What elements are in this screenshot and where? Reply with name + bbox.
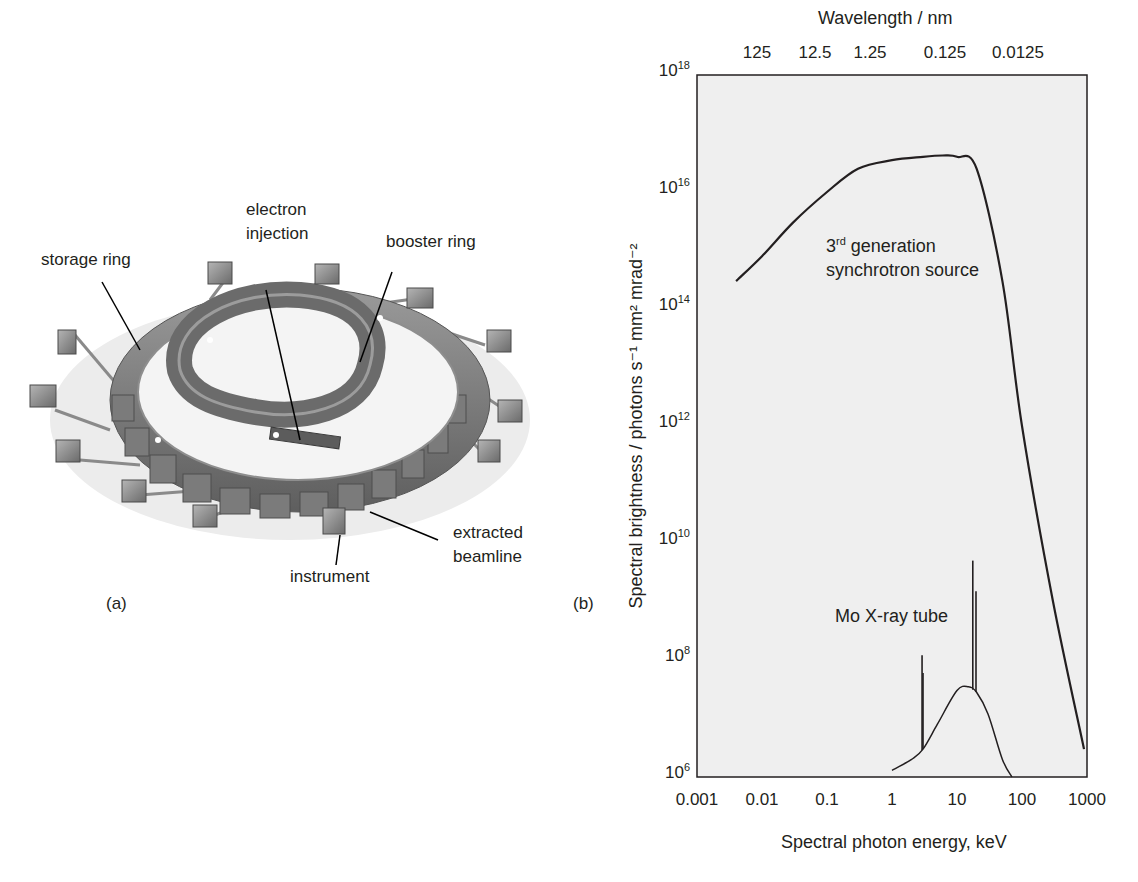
x-axis-label: Spectral photon energy, keV [781,832,1007,853]
y-tick-label: 108 [665,646,690,666]
label-storage-ring: storage ring [41,250,131,270]
label-extracted-beamline-line2: beamline [453,547,522,567]
x-tick-label: 0.001 [676,790,719,810]
mo-xray-tube-curve [892,686,1012,777]
top-axis-label: Wavelength / nm [818,8,952,29]
mo-xray-annotation: Mo X-ray tube [835,606,948,627]
label-extracted-beamline-line1: extracted [453,523,523,543]
label-instrument: instrument [290,567,369,587]
y-tick-label: 106 [665,763,690,783]
y-axis-label: Spectral brightness / photons s⁻¹ mm² mr… [625,243,647,608]
panel-b-label: (b) [573,594,594,614]
plot-area [697,75,1087,777]
label-electron-injection-line2: injection [246,224,308,244]
top-tick-label: 125 [743,43,771,63]
y-axis-label-text: Spectral brightness / photons s⁻¹ mm² mr… [626,243,646,608]
synchrotron-diagram [0,0,600,640]
label-booster-ring: booster ring [386,232,476,252]
y-tick-label: 1016 [659,178,690,198]
x-tick-label: 1 [887,790,896,810]
x-tick-label: 0.1 [815,790,839,810]
x-tick-label: 0.01 [745,790,778,810]
top-tick-label: 12.5 [798,43,831,63]
top-tick-label: 1.25 [853,43,886,63]
label-electron-injection-line1: electron [246,200,306,220]
synchrotron-annotation-line2: synchrotron source [826,260,979,281]
y-tick-label: 1018 [659,61,690,81]
x-tick-label: 10 [948,790,967,810]
top-tick-label: 0.0125 [992,43,1044,63]
top-tick-label: 0.125 [924,43,967,63]
x-tick-label: 1000 [1068,790,1106,810]
mo-emission-lines [922,561,976,750]
y-tick-label: 1014 [659,295,690,315]
panel-a-label: (a) [106,594,127,614]
synchrotron-annotation-line1: 3rd generation [826,236,936,257]
x-tick-label: 100 [1008,790,1036,810]
y-tick-label: 1012 [659,412,690,432]
y-tick-label: 1010 [659,529,690,549]
